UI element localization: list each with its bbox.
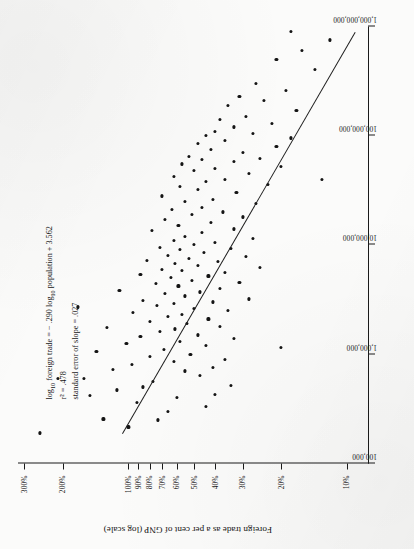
scatter-plot-figure: 100,0001,000,00010,000,000100,000,0001,0…: [0, 0, 414, 549]
rotated-figure-container: 100,0001,000,00010,000,000100,000,0001,0…: [0, 0, 414, 549]
regression-line-layer: [0, 0, 414, 549]
regression-line: [122, 31, 356, 433]
